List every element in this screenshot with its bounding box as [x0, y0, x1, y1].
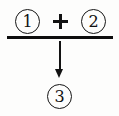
plus-icon — [51, 10, 69, 32]
down-arrow-shaft — [59, 41, 61, 71]
down-arrow-icon — [52, 41, 68, 79]
plus-icon-vertical-stroke — [59, 14, 62, 29]
combination-diagram: 1 2 3 — [0, 0, 119, 116]
circled-number-2: 2 — [81, 9, 106, 34]
circled-number-1: 1 — [15, 9, 40, 34]
circled-number-3: 3 — [47, 84, 72, 109]
down-arrow-head — [55, 69, 63, 78]
horizontal-divider-rule — [7, 36, 113, 39]
